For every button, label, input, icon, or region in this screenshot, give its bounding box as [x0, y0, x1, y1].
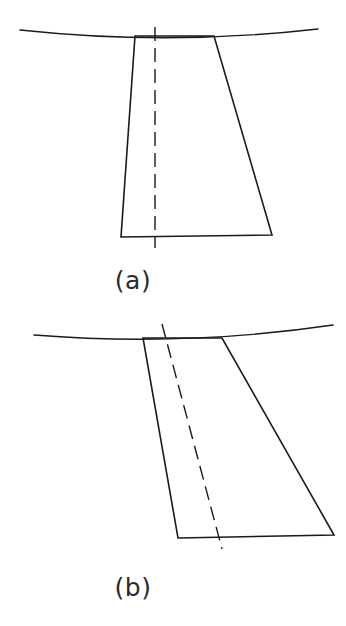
panel-caption-b: (b) [73, 573, 193, 602]
surface-line-b [34, 325, 333, 339]
technical-diagram [0, 0, 346, 626]
centerline-b [162, 324, 222, 549]
section-outline-b [143, 338, 334, 538]
section-outline-a [121, 36, 272, 237]
panel-a-group [20, 27, 318, 248]
panel-b-group [34, 324, 334, 549]
panel-caption-a: (a) [73, 266, 193, 295]
figure-root: (a) (b) [0, 0, 346, 626]
